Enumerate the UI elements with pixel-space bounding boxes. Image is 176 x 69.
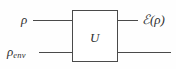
- input-wire-top: [33, 20, 73, 21]
- script-e-symbol: ℰ: [142, 12, 150, 27]
- output-label-channel: ℰ(ρ): [142, 13, 165, 26]
- input-label-rho-env: ρenv: [7, 45, 26, 58]
- quantum-circuit-figure: U ρ ρenv ℰ(ρ): [0, 0, 176, 69]
- rho-symbol: ρ: [21, 12, 27, 27]
- output-wire-bottom: [117, 52, 171, 53]
- output-wire-top: [117, 20, 138, 21]
- unitary-gate-label: U: [90, 31, 99, 44]
- output-argument: (ρ): [150, 12, 165, 27]
- rho-env-subscript: env: [13, 50, 25, 60]
- input-wire-bottom: [39, 52, 73, 53]
- input-label-rho: ρ: [21, 13, 27, 26]
